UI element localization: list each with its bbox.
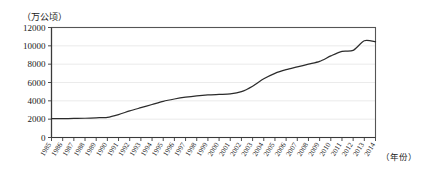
- gridlines: [52, 46, 376, 119]
- y-tick-label: 4000: [28, 96, 47, 106]
- y-tick-label: 2000: [28, 114, 47, 124]
- data-series-line: [52, 40, 376, 118]
- y-tick-label: 12000: [23, 23, 46, 33]
- y-axis-ticks: 020004000600080001000012000: [23, 23, 52, 143]
- y-tick-label: 10000: [23, 41, 46, 51]
- x-axis-title: （年份）: [381, 152, 417, 162]
- y-tick-label: 6000: [28, 78, 47, 88]
- chart-container: （万公顷） 020004000600080001000012000 198519…: [0, 0, 427, 179]
- x-axis-ticks: 1985198619871988198919901991199219931994…: [39, 138, 378, 158]
- y-axis-unit-label: （万公顷）: [22, 12, 67, 22]
- x-tick-label: 2014: [363, 141, 378, 158]
- x-tick-label: 2010: [318, 141, 333, 158]
- chart-unit-label-group: （万公顷）: [22, 12, 67, 22]
- y-tick-label: 0: [41, 133, 46, 143]
- y-tick-label: 8000: [28, 59, 47, 69]
- line-chart: （万公顷） 020004000600080001000012000 198519…: [0, 0, 427, 179]
